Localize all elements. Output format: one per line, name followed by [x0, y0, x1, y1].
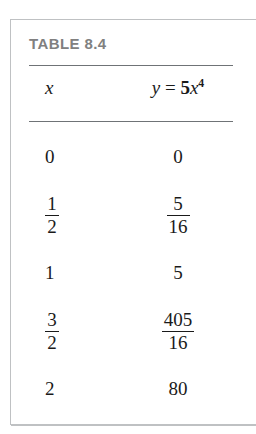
fraction-numerator: 405 [162, 310, 195, 331]
figure-bottom-border [11, 425, 256, 426]
table-header-row: x y = 5x4 [11, 77, 256, 117]
cell-y-value: 0 [173, 146, 183, 168]
fraction-denominator: 2 [45, 332, 59, 353]
cell-y: 5 16 [123, 186, 233, 244]
cell-x-value: 2 [45, 378, 55, 400]
cell-x: 2 [45, 360, 115, 418]
fraction-denominator: 16 [167, 216, 190, 237]
page-title: TABLE 8.4 [29, 35, 107, 52]
cell-y: 80 [123, 360, 233, 418]
header-divider [29, 121, 233, 122]
cell-y: 405 16 [123, 302, 233, 360]
cell-x-value: 1 [45, 262, 55, 284]
cell-y: 0 [123, 128, 233, 186]
fraction: 1 2 [45, 194, 59, 237]
column-header-y: y = 5x4 [123, 77, 233, 99]
fraction-numerator: 3 [45, 310, 59, 331]
column-header-y-variable: y [152, 77, 160, 98]
column-header-y-coefficient: 5 [180, 77, 190, 98]
fraction: 3 2 [45, 310, 59, 353]
fraction: 5 16 [167, 194, 190, 237]
cell-x: 1 2 [45, 186, 115, 244]
table-row: 1 5 [11, 244, 256, 302]
fraction-denominator: 2 [45, 216, 59, 237]
cell-y-value: 5 [173, 262, 183, 284]
cell-x: 1 [45, 244, 115, 302]
column-header-y-exponent: 4 [198, 77, 204, 90]
title-divider [29, 65, 233, 66]
cell-x-value: 0 [45, 146, 55, 168]
fraction: 405 16 [162, 310, 195, 353]
fraction-denominator: 16 [167, 332, 190, 353]
fraction-numerator: 5 [171, 194, 185, 215]
cell-y-value: 80 [169, 378, 188, 400]
table-figure: TABLE 8.4 x y = 5x4 0 0 1 2 [10, 19, 256, 425]
fraction-numerator: 1 [45, 194, 59, 215]
table-row: 3 2 405 16 [11, 302, 256, 360]
table-row: 0 0 [11, 128, 256, 186]
table-body: 0 0 1 2 5 16 [11, 128, 256, 418]
cell-y: 5 [123, 244, 233, 302]
column-header-y-equals: = [165, 77, 176, 98]
cell-x: 3 2 [45, 302, 115, 360]
cell-x: 0 [45, 128, 115, 186]
table-row: 2 80 [11, 360, 256, 418]
column-header-x: x [45, 77, 53, 99]
table-row: 1 2 5 16 [11, 186, 256, 244]
